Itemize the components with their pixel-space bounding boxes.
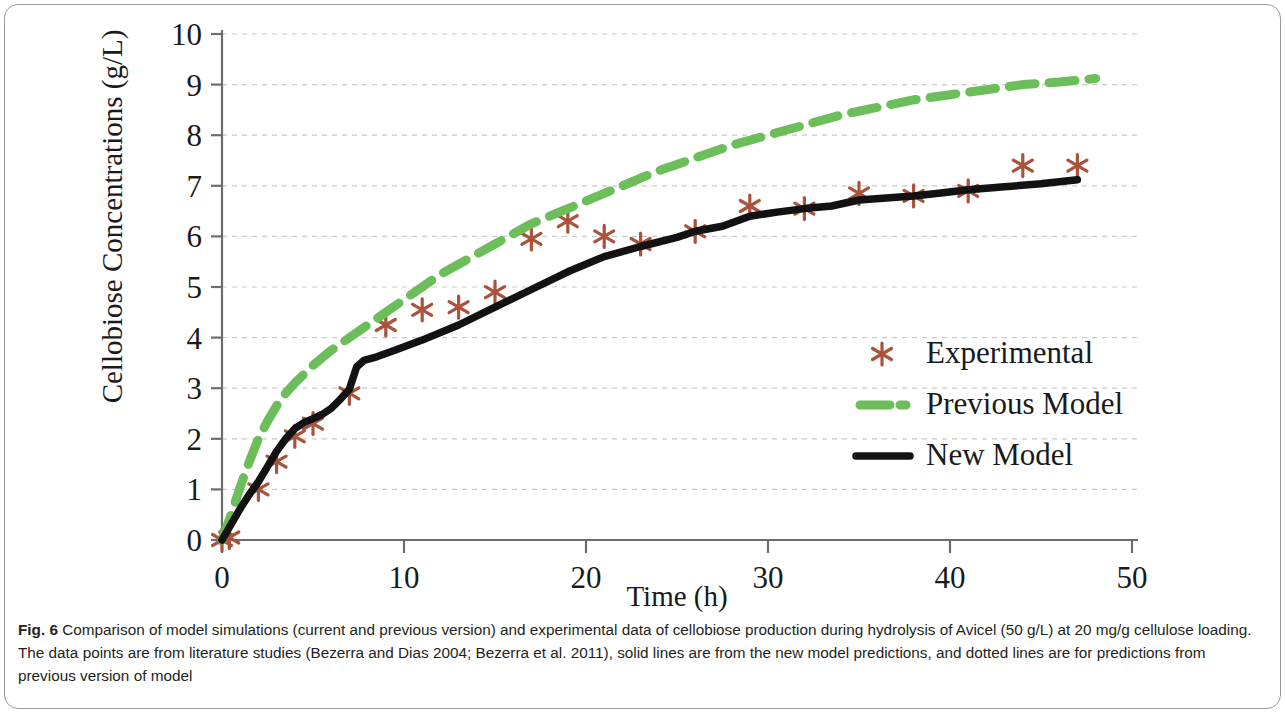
legend-label: Previous Model <box>926 386 1123 421</box>
cellobiose-concentration-chart: 01234567891001020304050ExperimentalPrevi… <box>0 0 1285 600</box>
y-axis-tick-label: 8 <box>187 118 203 153</box>
y-axis-tick-label: 2 <box>187 422 203 457</box>
data-point-experimental <box>413 299 432 321</box>
figure-container: 01234567891001020304050ExperimentalPrevi… <box>0 0 1285 713</box>
y-axis-tick-label: 3 <box>187 371 203 406</box>
plot-area: 01234567891001020304050ExperimentalPrevi… <box>0 0 1285 600</box>
data-point-experimental <box>1068 155 1087 177</box>
y-axis-tick-label: 7 <box>187 169 203 204</box>
figure-caption: Fig. 6 Comparison of model simulations (… <box>18 618 1263 687</box>
x-axis-label: Time (h) <box>222 580 1132 613</box>
legend-label: New Model <box>926 437 1073 472</box>
y-axis-tick-label: 1 <box>187 472 203 507</box>
y-axis-tick-label: 10 <box>171 17 202 52</box>
y-axis-tick-label: 6 <box>187 219 203 254</box>
y-axis-tick-label: 5 <box>187 270 203 305</box>
figure-caption-text: Comparison of model simulations (current… <box>18 621 1251 684</box>
y-axis-tick-label: 0 <box>187 523 203 558</box>
figure-label: Fig. 6 <box>18 621 58 638</box>
data-point-experimental <box>595 225 614 247</box>
data-point-experimental <box>1013 155 1032 177</box>
legend-label: Experimental <box>926 335 1093 370</box>
y-axis-tick-label: 9 <box>187 68 203 103</box>
legend-marker-experimental <box>873 343 892 365</box>
y-axis-label: Cellobiose Concentrations (g/L) <box>96 0 129 437</box>
y-axis-tick-label: 4 <box>187 321 203 356</box>
data-point-experimental <box>449 296 468 318</box>
